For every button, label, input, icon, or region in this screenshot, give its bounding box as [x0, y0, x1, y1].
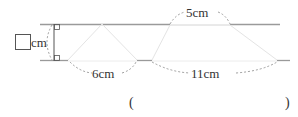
answer-open-paren: ( [129, 96, 134, 110]
right-angle-top-icon [55, 25, 60, 30]
right-angle-bottom-icon [55, 56, 60, 61]
triangle-shape [68, 24, 137, 60]
trapezoid-base-label: 11cm [191, 67, 219, 80]
diagram-canvas [0, 0, 298, 117]
trapezoid-shape [152, 25, 277, 60]
height-brace [47, 25, 52, 60]
height-unit-label: cm [31, 36, 47, 49]
answer-close-paren: ) [285, 96, 290, 110]
trapezoid-top-label: 5cm [186, 6, 208, 19]
height-answer-box[interactable] [15, 34, 31, 50]
triangle-base-label: 6cm [92, 67, 114, 80]
